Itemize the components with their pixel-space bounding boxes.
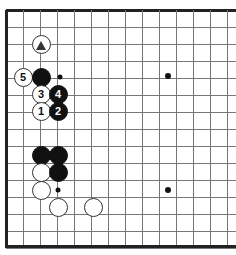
stone-black-plain-b[interactable] — [32, 146, 51, 165]
stone-move-number: 4 — [55, 88, 61, 99]
stone-black-plain-a[interactable] — [32, 68, 51, 87]
stone-white-1[interactable]: 1 — [32, 102, 51, 121]
go-board-diagram: 53412 — [0, 0, 236, 255]
stone-black-plain-c[interactable] — [49, 146, 68, 165]
intersection-dot-upper — [58, 75, 63, 80]
stone-move-number: 1 — [38, 105, 44, 116]
intersection-dot-lower — [56, 188, 61, 193]
stone-white-plain-b[interactable] — [32, 181, 51, 200]
stone-black-4[interactable]: 4 — [49, 85, 68, 104]
stone-white-triangle[interactable] — [32, 35, 51, 54]
stone-white-5[interactable]: 5 — [14, 68, 33, 87]
star-point-lower-right — [165, 187, 171, 193]
stone-move-number: 2 — [55, 105, 61, 116]
stone-move-number: 3 — [38, 88, 44, 99]
stone-black-2[interactable]: 2 — [49, 102, 68, 121]
stone-white-plain-a[interactable] — [32, 163, 51, 182]
stone-white-3[interactable]: 3 — [32, 85, 51, 104]
stone-white-plain-c[interactable] — [49, 198, 68, 217]
stone-move-number: 5 — [20, 71, 26, 82]
stone-white-plain-d[interactable] — [84, 198, 103, 217]
stone-black-plain-d[interactable] — [49, 163, 68, 182]
star-point-upper-right — [165, 73, 171, 79]
triangle-mark-icon — [36, 41, 46, 50]
